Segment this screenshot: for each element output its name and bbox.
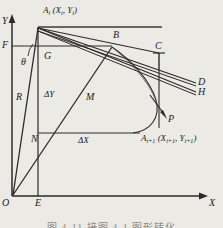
label-y-axis: Y: [2, 16, 8, 26]
label-segment-r: R: [16, 92, 22, 102]
label-ainext-coords-sub1: i+1: [166, 138, 175, 144]
label-origin: O: [2, 198, 9, 208]
diagram-canvas: [0, 0, 223, 228]
figure-container: Ai (Xi, Yi) Ai+1 (Xi+1, Yi+1) Y X O B C …: [0, 0, 223, 228]
label-ai-coords-mid: , Y: [63, 5, 73, 15]
label-ai-letter: A: [43, 5, 49, 15]
label-point-ai-next: Ai+1 (Xi+1, Yi+1): [141, 134, 196, 143]
label-ainext-coords-sub2: i+1: [185, 138, 194, 144]
x-axis-arrowhead: [199, 193, 208, 200]
label-ai-coords-open: (X: [50, 5, 61, 15]
label-ainext-coords-close: ): [193, 133, 196, 143]
label-ai-coords-sub2: i: [72, 10, 74, 16]
figure-caption: 图 4-11 接图 4-1 图形转化: [0, 219, 223, 228]
label-x-axis: X: [209, 198, 215, 208]
label-point-f: F: [2, 40, 8, 50]
y-axis-arrowhead: [9, 14, 16, 23]
label-segment-m: M: [86, 92, 94, 102]
label-ainext-coords-mid: , Y: [175, 133, 185, 143]
arrow-to-p-head: [160, 110, 167, 119]
label-point-e: E: [35, 198, 41, 208]
label-ai-subscript: i: [49, 10, 51, 16]
label-ainext-coords-open: (X: [155, 133, 166, 143]
transition-arc: [112, 47, 157, 133]
label-point-c: C: [155, 41, 162, 51]
label-ai-coords-sub1: i: [61, 10, 63, 16]
ray-ai-companion-lower: [38, 31, 196, 95]
label-point-p: P: [168, 114, 174, 124]
label-point-b: B: [113, 30, 119, 40]
radius-o-to-ai: [13, 28, 38, 195]
label-point-h: H: [198, 87, 205, 97]
label-point-g: G: [44, 51, 51, 61]
label-angle-theta: θ: [21, 57, 26, 67]
label-point-n: N: [31, 134, 38, 144]
label-delta-y: ΔY: [44, 90, 54, 99]
label-ainext-subscript: i+1: [147, 138, 156, 144]
chord-o-to-b: [13, 47, 112, 195]
label-ai-coords-close: ): [74, 5, 77, 15]
label-ainext-letter: A: [141, 133, 147, 143]
label-delta-x: ΔX: [78, 136, 89, 145]
label-point-ai: Ai (Xi, Yi): [43, 6, 77, 15]
